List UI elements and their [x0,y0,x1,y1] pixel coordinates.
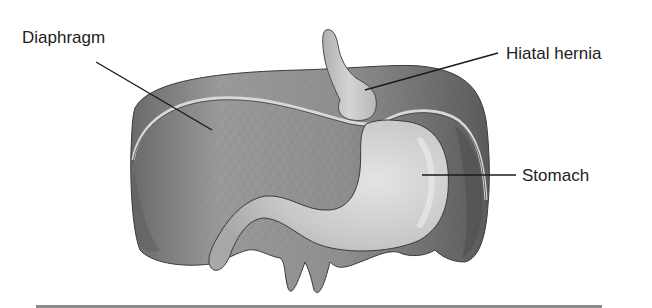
hiatal-hernia-label: Hiatal hernia [506,44,601,64]
diaphragm-label: Diaphragm [22,28,105,48]
stomach-label: Stomach [522,166,589,186]
diagram-canvas: Diaphragm Hiatal hernia Stomach [0,0,652,308]
